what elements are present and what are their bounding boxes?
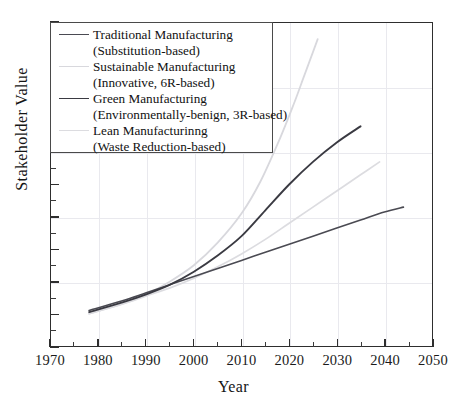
x-axis-tick [241,339,242,347]
x-axis-tick [384,339,385,347]
y-axis-tick [50,249,59,250]
legend-label-line1: Green Manufacturing [93,91,287,107]
x-axis-tick [145,339,146,347]
legend-label: Green Manufacturing(Environmentally-beni… [93,91,287,122]
x-axis-tick [337,339,338,347]
legend-label-line1: Lean Manufacturinng [93,123,226,139]
legend-label: Sustainable Manufacturing(Innovative, 6R… [93,59,235,90]
y-axis-tick [50,184,59,185]
y-axis-minor-tick [50,265,56,266]
legend-entry[interactable]: Green Manufacturing(Environmentally-beni… [51,91,272,123]
legend-entry[interactable]: Lean Manufacturinng(Waste Reduction-base… [51,123,272,155]
y-axis-title: Stakeholder Value [13,39,31,219]
x-axis-tick [97,339,98,347]
legend-label-line1: Sustainable Manufacturing [93,59,235,75]
series-line [89,207,403,310]
series-line [89,162,380,314]
x-axis-minor-tick [121,342,122,347]
x-axis-title: Year [0,378,467,396]
legend-label: Lean Manufacturinng(Waste Reduction-base… [93,123,226,154]
legend-label-line2: (Environmentally-benign, 3R-based) [93,107,287,123]
legend-label-line1: Traditional Manufacturing [93,27,233,43]
x-axis-minor-tick [361,342,362,347]
y-axis-tick [50,346,59,347]
y-axis-minor-tick [50,298,56,299]
chart-figure: 197019801990200020102020203020402050 Yea… [0,0,467,413]
y-axis-tick [50,314,59,315]
legend-color-swatch [59,34,89,35]
y-axis-tick [50,216,59,217]
y-axis-minor-tick [50,330,56,331]
x-axis-minor-tick [217,342,218,347]
legend-label: Traditional Manufacturing(Substitution-b… [93,27,233,58]
x-axis-minor-tick [313,342,314,347]
x-axis-minor-tick [169,342,170,347]
x-axis-tick [432,339,433,347]
legend-entry[interactable]: Traditional Manufacturing(Substitution-b… [51,27,272,59]
x-axis-minor-tick [409,342,410,347]
x-axis-minor-tick [265,342,266,347]
legend-color-swatch [59,98,89,99]
legend-label-line2: (Waste Reduction-based) [93,139,226,155]
x-axis-tick [289,339,290,347]
legend-color-swatch [59,130,89,131]
x-axis-tick-label: 2050 [405,352,461,369]
x-axis-minor-tick [73,342,74,347]
y-axis-minor-tick [50,168,56,169]
legend-label-line2: (Innovative, 6R-based) [93,75,235,91]
x-axis-tick [193,339,194,347]
y-axis-minor-tick [50,233,56,234]
legend-color-swatch [59,66,89,67]
chart-legend: Traditional Manufacturing(Substitution-b… [50,22,273,153]
y-axis-tick [50,281,59,282]
legend-entry[interactable]: Sustainable Manufacturing(Innovative, 6R… [51,59,272,91]
y-axis-minor-tick [50,200,56,201]
legend-label-line2: (Substitution-based) [93,43,233,59]
